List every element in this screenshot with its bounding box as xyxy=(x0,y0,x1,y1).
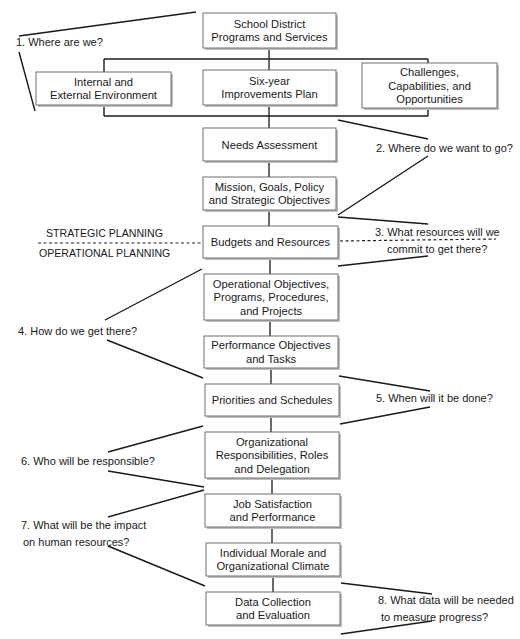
box-label-line: and Evaluation xyxy=(236,609,310,621)
box-label-line: Internal and xyxy=(74,76,133,88)
box-label-line: Operational Objectives, xyxy=(213,278,329,290)
box-label-line: Challenges, xyxy=(400,66,459,78)
box-label-line: Improvements Plan xyxy=(221,88,317,100)
question-q1-line: 1. Where are we? xyxy=(16,36,103,48)
box-label-line: Performance Objectives xyxy=(211,339,331,351)
box-label-line: Opportunities xyxy=(396,93,463,105)
box-school-district: School DistrictPrograms and Services xyxy=(203,13,338,50)
strategic-operational-planning-diagram: School DistrictPrograms and ServicesInte… xyxy=(0,0,520,639)
strategic-planning-label: STRATEGIC PLANNING xyxy=(46,227,163,239)
box-label-line: External Environment xyxy=(50,89,158,101)
box-internal-external: Internal andExternal Environment xyxy=(36,72,173,107)
box-label-line: Capabilities, and xyxy=(388,80,471,92)
box-label-line: Organizational xyxy=(236,436,308,448)
box-label-line: and Projects xyxy=(240,305,303,317)
box-operational-objectives: Operational Objectives,Programs, Procedu… xyxy=(204,274,340,322)
box-needs-assessment: Needs Assessment xyxy=(203,128,338,163)
box-label-line: Individual Morale and xyxy=(220,547,326,559)
box-label-line: and Performance xyxy=(230,511,316,523)
box-label-line: School District xyxy=(234,18,306,30)
box-label-line: and Strategic Objectives xyxy=(209,194,331,206)
box-label-line: Data Collection xyxy=(235,596,311,608)
box-job-satisfaction: Job Satisfactionand Performance xyxy=(205,494,342,529)
box-label-line: Needs Assessment xyxy=(222,139,319,151)
box-label-line: Budgets and Resources xyxy=(211,236,331,248)
box-label-line: Job Satisfaction xyxy=(233,498,312,510)
box-label-line: Programs and Services xyxy=(211,31,328,43)
question-q8-line: 8. What data will be needed xyxy=(378,594,514,606)
box-label-line: and Delegation xyxy=(234,463,309,475)
question-q6-line: 6. Who will be responsible? xyxy=(21,455,155,467)
operational-planning-label: OPERATIONAL PLANNING xyxy=(39,247,170,259)
question-q7-line: on human resources? xyxy=(23,536,129,548)
box-label-line: Responsibilities, Roles xyxy=(216,449,329,461)
box-individual-morale: Individual Morale andOrganizational Clim… xyxy=(206,543,342,578)
box-performance-objectives: Performance Objectivesand Tasks xyxy=(204,336,340,370)
box-data-collection: Data Collectionand Evaluation xyxy=(206,592,342,627)
question-q7-line: 7. What will be the impact xyxy=(21,519,146,531)
box-label-line: Organizational Climate xyxy=(216,560,329,572)
box-mission-goals: Mission, Goals, Policyand Strategic Obje… xyxy=(203,177,338,212)
box-label-line: and Tasks xyxy=(246,353,297,365)
question-q2-line: 2. Where do we want to go? xyxy=(376,142,513,154)
question-q5-line: 5. When will it be done? xyxy=(376,392,493,404)
question-q4-line: 4. How do we get there? xyxy=(18,325,137,337)
box-label-line: Priorities and Schedules xyxy=(212,394,333,406)
question-q3-line: commit to get there? xyxy=(387,243,487,255)
box-six-year: Six-yearImprovements Plan xyxy=(203,70,338,107)
question-q8-line: to measure progress? xyxy=(381,611,488,623)
box-priorities-schedules: Priorities and Schedules xyxy=(205,384,341,418)
guiding-questions: 1. Where are we?2. Where do we want to g… xyxy=(16,36,514,623)
box-budgets-resources: Budgets and Resources xyxy=(203,226,340,260)
question-q3-line: 3. What resources will we xyxy=(375,226,500,238)
box-label-line: Six-year xyxy=(249,75,290,87)
box-label-line: Programs, Procedures, xyxy=(213,291,328,303)
box-label-line: Mission, Goals, Policy xyxy=(215,181,325,193)
box-organizational-responsibilities: OrganizationalResponsibilities, Rolesand… xyxy=(205,432,341,480)
box-challenges: Challenges,Capabilities, andOpportunitie… xyxy=(362,63,499,110)
